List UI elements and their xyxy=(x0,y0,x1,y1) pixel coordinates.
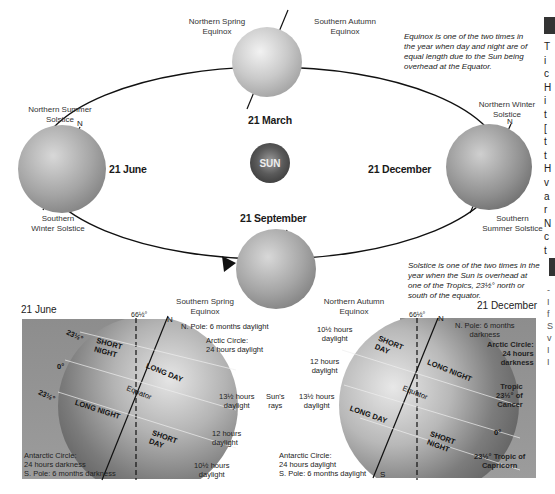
june-daylight-12: 12 hours daylight xyxy=(212,429,241,447)
sun-label: SUN xyxy=(259,158,280,169)
north-marker-june: N xyxy=(77,119,83,128)
december-arctic-label: Arctic Circle: 24 hours darkness xyxy=(487,340,534,367)
june-daylight-13: 13½ hours daylight xyxy=(219,392,254,410)
sun-rays-label: Sun's rays xyxy=(266,392,285,410)
label-northern-summer-solstice: Northern Summer Solstice xyxy=(15,105,105,124)
december-daylight-12: 12 hours daylight xyxy=(310,357,339,375)
december-n-pole-label: N. Pole: 6 months darkness xyxy=(455,321,515,339)
december-tropic-cancer: Tropic 23½° of Cancer xyxy=(496,382,523,409)
december-tropic-capricorn: 23½° Tropic of Capricorn xyxy=(474,452,525,470)
june-angle-label: 66½° xyxy=(131,311,147,318)
date-september: 21 September xyxy=(240,212,306,224)
label-southern-summer-solstice: Southern Summer Solstice xyxy=(470,214,555,233)
june-lat-mid: 0° xyxy=(57,362,64,371)
sun: SUN xyxy=(250,143,290,183)
label-southern-winter-solstice: Southern Winter Solstice xyxy=(18,214,98,233)
december-daylight-13: 13½ hours daylight xyxy=(299,392,334,410)
june-north-marker: N xyxy=(167,315,173,324)
label-southern-autumn-equinox: Southern Autumn Equinox xyxy=(300,17,390,36)
december-daylight-10: 10½ hours daylight xyxy=(317,325,352,343)
label-northern-spring-equinox: Northern Spring Equinox xyxy=(172,17,262,36)
north-marker-december: N xyxy=(507,117,513,126)
june-daylight-10: 10½ hours daylight xyxy=(194,461,229,479)
december-lat-mid: 0° xyxy=(494,428,501,437)
side-text-column-2: - I f S v I I xyxy=(547,284,555,368)
side-text-column: T i c H i t [ t t H v a r N c t xyxy=(544,40,555,258)
date-march: 21 March xyxy=(248,114,292,126)
december-angle-label: 66½° xyxy=(409,311,425,318)
equinox-note: Equinox is one of the two times in the y… xyxy=(404,32,529,72)
december-north-marker: N xyxy=(438,314,444,323)
date-june: 21 June xyxy=(109,163,147,175)
date-december: 21 December xyxy=(368,163,431,175)
globe-march xyxy=(232,27,302,97)
side-header-bar-2 xyxy=(549,258,555,276)
december-antarctic-label: Antarctic Circle: 24 hours daylight S. P… xyxy=(279,451,366,478)
december-south-marker: S xyxy=(380,470,385,479)
solstice-note: Solstice is one of the two times in the … xyxy=(408,261,540,301)
june-arctic-label: Arctic Circle: 24 hours daylight xyxy=(206,336,263,354)
globe-december xyxy=(446,124,532,210)
side-header-bar xyxy=(544,17,555,34)
june-antarctic-label: Antarctic Circle: 24 hours darkness S. P… xyxy=(24,451,116,478)
june-n-pole-label: N. Pole: 6 months daylight xyxy=(181,322,269,331)
globe-june xyxy=(18,125,106,213)
